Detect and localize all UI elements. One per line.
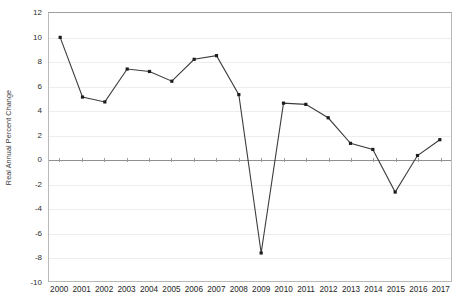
- x-tickmark: [441, 158, 442, 162]
- y-tick-label: -6: [35, 228, 42, 237]
- y-tick-label: 8: [38, 57, 42, 66]
- x-tick-label: 2002: [95, 285, 113, 294]
- x-tickmark: [396, 158, 397, 162]
- x-tickmark: [194, 158, 195, 162]
- y-tick-label: 2: [38, 130, 42, 139]
- x-tick-label: 2004: [140, 285, 158, 294]
- data-point-marker: [215, 54, 218, 57]
- x-tick-label: 2007: [207, 285, 225, 294]
- x-tick-label: 2016: [409, 285, 427, 294]
- x-tick-label: 2000: [50, 285, 68, 294]
- x-tickmark: [373, 158, 374, 162]
- data-point-marker: [237, 93, 240, 96]
- data-point-marker: [416, 154, 419, 157]
- x-tick-label: 2015: [387, 285, 405, 294]
- x-tick-label: 2012: [319, 285, 337, 294]
- data-point-marker: [282, 102, 285, 105]
- data-point-marker: [438, 138, 441, 141]
- y-tick-label: 0: [38, 155, 42, 164]
- x-tickmark: [82, 158, 83, 162]
- x-tickmark: [59, 158, 60, 162]
- x-tick-label: 2011: [297, 285, 315, 294]
- x-tickmark: [104, 158, 105, 162]
- y-tick-label: 6: [38, 81, 42, 90]
- x-tick-label: 2014: [364, 285, 382, 294]
- y-axis-title-text: Real Annual Percent Change: [5, 90, 14, 185]
- y-tick-label: -4: [35, 204, 42, 213]
- data-point-marker: [170, 80, 173, 83]
- x-tickmark: [418, 158, 419, 162]
- x-tick-label: 2005: [162, 285, 180, 294]
- y-tick-label: -2: [35, 179, 42, 188]
- data-point-marker: [103, 100, 106, 103]
- plot-area: [48, 12, 452, 282]
- y-tick-label: -10: [30, 278, 42, 287]
- x-tick-label: 2008: [230, 285, 248, 294]
- data-point-marker: [193, 58, 196, 61]
- x-tickmark: [261, 158, 262, 162]
- data-point-marker: [349, 142, 352, 145]
- x-tick-label: 2003: [117, 285, 135, 294]
- data-point-marker: [81, 95, 84, 98]
- x-tickmark: [239, 158, 240, 162]
- x-tick-label: 2010: [275, 285, 293, 294]
- y-axis-title: Real Annual Percent Change: [0, 0, 18, 275]
- y-axis-tick-labels: 121086420-2-4-6-8-10: [18, 0, 46, 300]
- x-tick-label: 2006: [185, 285, 203, 294]
- data-point-marker: [327, 116, 330, 119]
- x-tickmark: [329, 158, 330, 162]
- y-tick-label: -8: [35, 253, 42, 262]
- data-point-marker: [260, 251, 263, 254]
- x-tickmark: [216, 158, 217, 162]
- data-point-marker: [394, 190, 397, 193]
- line-chart-figure: Real Annual Percent Change 121086420-2-4…: [0, 0, 463, 300]
- x-tickmark: [306, 158, 307, 162]
- data-point-marker: [304, 103, 307, 106]
- x-axis-tick-labels: 2000200120022003200420052006200720082009…: [48, 282, 452, 300]
- y-tick-label: 10: [33, 32, 42, 41]
- data-point-marker: [59, 36, 62, 39]
- x-tick-label: 2009: [252, 285, 270, 294]
- y-tick-label: 12: [33, 8, 42, 17]
- x-tickmark: [284, 158, 285, 162]
- data-point-marker: [126, 67, 129, 70]
- x-tickmark: [171, 158, 172, 162]
- x-tickmark: [149, 158, 150, 162]
- data-point-marker: [371, 148, 374, 151]
- data-point-marker: [148, 70, 151, 73]
- x-tickmark: [351, 158, 352, 162]
- x-tickmark: [127, 158, 128, 162]
- x-tick-label: 2001: [73, 285, 91, 294]
- series-line: [60, 37, 440, 253]
- series-plot: [49, 13, 451, 281]
- y-tick-label: 4: [38, 106, 42, 115]
- x-tick-label: 2013: [342, 285, 360, 294]
- x-tick-label: 2017: [432, 285, 450, 294]
